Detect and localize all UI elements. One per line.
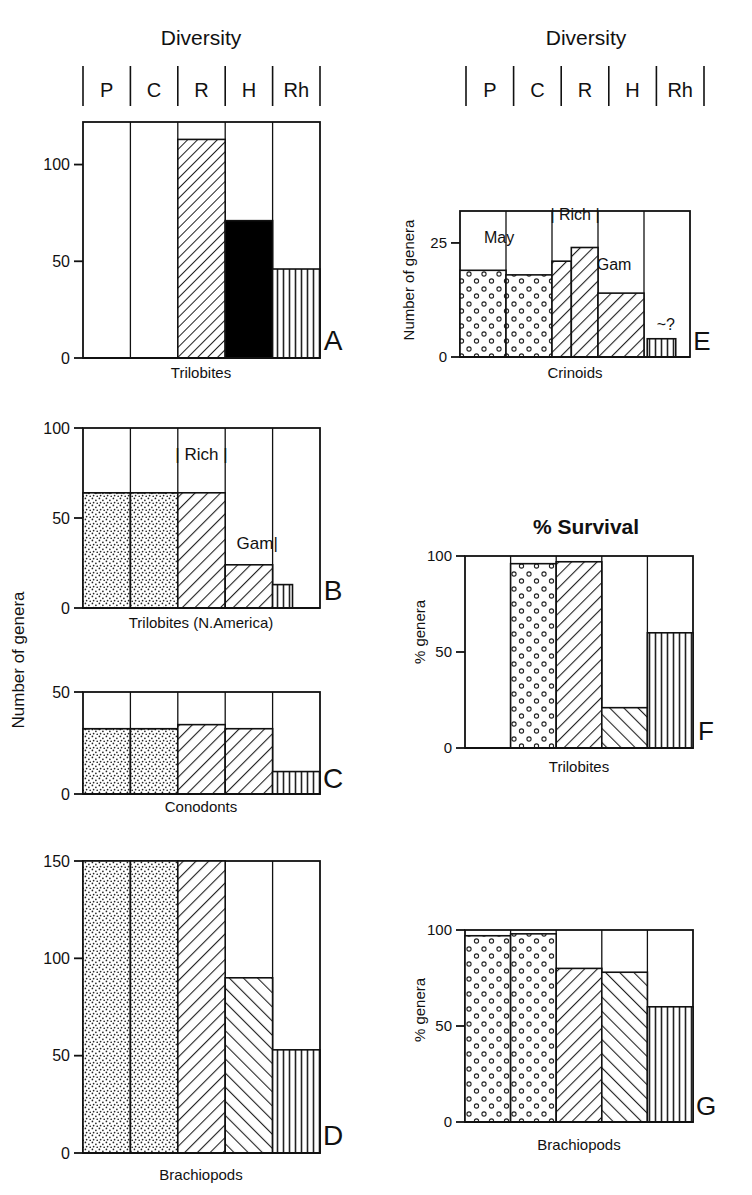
y-tick-label: 50 [52, 510, 70, 527]
bar-h [602, 972, 648, 1122]
axis-title-number-of-genera-e: Number of genera [400, 219, 417, 341]
left-header-title: Diversity [161, 26, 242, 49]
bar-r [178, 861, 225, 1153]
bar-rh [273, 269, 320, 358]
bar-rh [273, 772, 320, 794]
y-tick-label: 100 [43, 156, 70, 173]
stage-label-r: R [194, 79, 208, 101]
y-tick-label: 0 [61, 600, 70, 617]
bar-h [602, 708, 648, 748]
bar-c [130, 861, 177, 1153]
annotation-may: May [484, 229, 514, 246]
stage-label-rh: Rh [667, 79, 693, 101]
annotation-rich: | Rich | [175, 445, 227, 464]
panel-xlabel: Trilobites [549, 758, 609, 775]
panel-letter-f: F [698, 716, 714, 746]
y-tick-label: 0 [444, 739, 452, 756]
panel-g: 050100BrachiopodsG [427, 921, 716, 1153]
panel-letter-a: A [324, 325, 343, 356]
annotation-~?: ~? [657, 316, 675, 333]
bar-rh [647, 1007, 693, 1122]
bar-r [556, 562, 602, 748]
y-tick-label: 50 [435, 1017, 452, 1034]
bar-h [225, 729, 272, 794]
panel-xlabel: Trilobites [171, 364, 231, 381]
axis-title-number-of-genera-left: Number of genera [9, 591, 28, 729]
axis-title-percent-genera-f: % genera [411, 599, 428, 664]
y-tick-label: 0 [439, 348, 447, 365]
panel-letter-e: E [693, 326, 710, 356]
panel-a: 050100TrilobitesA [43, 122, 342, 381]
bar-p [83, 861, 130, 1153]
bar-rh [647, 339, 676, 357]
stage-label-p: P [100, 79, 113, 101]
y-tick-label: 25 [430, 234, 447, 251]
bar-h [225, 221, 272, 358]
panel-letter-d: D [323, 1120, 343, 1151]
bar-r [178, 725, 225, 794]
stage-label-p: P [483, 79, 496, 101]
y-tick-label: 100 [43, 950, 70, 967]
panel-xlabel: Brachiopods [537, 1136, 620, 1153]
stage-label-h: H [242, 79, 256, 101]
figure-canvas: Diversity PCRHRh Diversity PCRHRh % Surv… [0, 0, 752, 1195]
panel-b: 050100| Rich |Gam|Trilobites (N.America)… [43, 420, 342, 631]
y-tick-label: 50 [52, 684, 70, 701]
y-tick-label: 100 [43, 420, 70, 437]
bar-rh [273, 585, 293, 608]
bar-p [465, 936, 511, 1122]
bar-rh [273, 1050, 320, 1153]
bar-p [460, 270, 506, 357]
annotation-gam: Gam [597, 256, 632, 273]
panel-letter-c: C [323, 763, 343, 794]
annotation-gam: Gam| [237, 534, 278, 553]
bar-p [83, 729, 130, 794]
y-tick-label: 50 [52, 253, 70, 270]
axis-title-percent-genera-g: % genera [411, 977, 428, 1042]
bar-r [556, 968, 602, 1122]
panel-xlabel: Conodonts [165, 798, 238, 815]
y-tick-label: 0 [61, 1145, 70, 1162]
stage-label-r: R [578, 79, 592, 101]
y-tick-label: 0 [444, 1113, 452, 1130]
panel-f: 050100TrilobitesF [427, 547, 714, 775]
annotation-rich: | Rich | [550, 206, 599, 223]
right-column-header: Diversity [546, 26, 627, 49]
stage-label-h: H [625, 79, 639, 101]
panel-letter-g: G [696, 1091, 716, 1121]
figure-root: Diversity PCRHRh Diversity PCRHRh % Surv… [0, 0, 752, 1195]
y-tick-label: 100 [427, 547, 452, 564]
bar-c [511, 564, 557, 748]
y-tick-label: 50 [435, 643, 452, 660]
right-header-title: Diversity [546, 26, 627, 49]
y-tick-label: 0 [61, 786, 70, 803]
panel-xlabel: Trilobites (N.America) [129, 614, 273, 631]
survival-title: % Survival [533, 515, 639, 538]
panel-xlabel: Brachiopods [159, 1166, 242, 1183]
bar-r-b [571, 248, 598, 358]
bar-r [178, 493, 225, 608]
stage-label-c: C [147, 79, 161, 101]
bar-r-a [552, 261, 571, 357]
left-column-header: Diversity [161, 26, 242, 49]
y-tick-label: 0 [61, 350, 70, 367]
y-tick-label: 150 [43, 853, 70, 870]
y-tick-label: 100 [427, 921, 452, 938]
bar-r [178, 139, 225, 358]
bar-c [130, 493, 177, 608]
bar-c [130, 729, 177, 794]
y-tick-label: 50 [52, 1047, 70, 1064]
bar-h [225, 978, 272, 1153]
panel-xlabel: Crinoids [547, 364, 602, 381]
bar-h [598, 293, 644, 357]
bar-c [511, 934, 557, 1122]
panel-e: 025May| Rich |Gam~?CrinoidsE [430, 206, 710, 381]
bar-p [83, 493, 130, 608]
bar-rh [647, 633, 693, 748]
stage-label-rh: Rh [284, 79, 310, 101]
bar-c [506, 275, 552, 357]
stage-label-c: C [530, 79, 544, 101]
panel-letter-b: B [324, 575, 343, 606]
bar-h [225, 565, 272, 608]
panel-d: 050100150BrachiopodsD [43, 853, 343, 1183]
